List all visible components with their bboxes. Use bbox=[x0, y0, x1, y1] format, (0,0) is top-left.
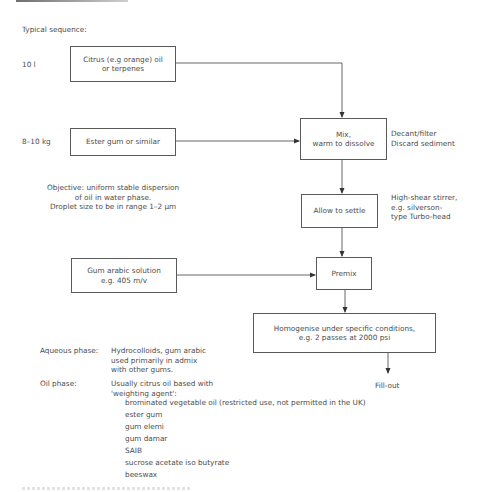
aqueous-phase-text: Hydrocolloids, gum arabic used primarily… bbox=[111, 346, 206, 375]
oil-phase-label: Oil phase: bbox=[40, 379, 77, 389]
box-mix: Mix, warm to dissolve bbox=[300, 118, 387, 160]
box-ester-gum-label: Ester gum or similar bbox=[86, 137, 160, 147]
box-citrus-oil: Citrus (e.g orange) oil or terpenes bbox=[70, 46, 176, 82]
box-homogenise: Homogenise under specific conditions, e.… bbox=[253, 313, 436, 353]
quantity-ester: 8–10 kg bbox=[22, 137, 51, 147]
oil-phase-text: Usually citrus oil based with 'weighting… bbox=[111, 379, 213, 398]
annotation-high-shear: High-shear stirrer, e.g. silverson- type… bbox=[391, 193, 457, 222]
quantity-citrus: 10 l bbox=[22, 60, 36, 70]
box-ester-gum: Ester gum or similar bbox=[70, 128, 176, 156]
box-mix-label: Mix, warm to dissolve bbox=[313, 130, 375, 149]
cropped-caption-line bbox=[22, 487, 192, 490]
annotation-objective: Objective: uniform stable dispersion of … bbox=[47, 183, 179, 212]
oil-agent-item: ester gum bbox=[125, 410, 162, 420]
oil-agent-item: SAIB bbox=[125, 446, 142, 456]
oil-agent-item: gum damar bbox=[125, 434, 167, 444]
heading: Typical sequence: bbox=[22, 25, 87, 35]
fill-out-label: Fill-out bbox=[375, 381, 399, 391]
box-allow-to-settle: Allow to settle bbox=[301, 194, 378, 228]
box-premix-label: Premix bbox=[331, 269, 356, 279]
box-gum-arabic: Gum arabic solution e.g. 405 m/v bbox=[71, 258, 177, 293]
box-premix: Premix bbox=[316, 257, 372, 290]
oil-agent-item: gum elemi bbox=[125, 422, 164, 432]
box-citrus-oil-label: Citrus (e.g orange) oil or terpenes bbox=[83, 55, 163, 74]
aqueous-phase-label: Aqueous phase: bbox=[40, 346, 98, 356]
annotation-decant: Decant/filter Discard sediment bbox=[391, 129, 455, 148]
box-homogenise-label: Homogenise under specific conditions, e.… bbox=[274, 324, 415, 343]
box-gum-arabic-label: Gum arabic solution e.g. 405 m/v bbox=[87, 266, 161, 285]
oil-agent-item: beeswax bbox=[125, 470, 157, 480]
box-allow-to-settle-label: Allow to settle bbox=[314, 206, 366, 216]
oil-agent-item: sucrose acetate iso butyrate bbox=[125, 458, 229, 468]
top-rule bbox=[16, 0, 128, 2]
oil-agent-item: brominated vegetable oil (restricted use… bbox=[125, 398, 366, 408]
